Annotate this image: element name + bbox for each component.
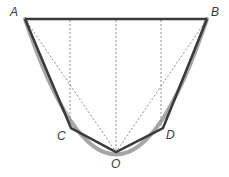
label-b: B — [211, 5, 219, 19]
label-o: O — [111, 157, 120, 171]
parabola-diagram: A B C O D — [0, 0, 229, 177]
diagram-svg: A B C O D — [0, 0, 229, 177]
label-a: A — [9, 5, 18, 19]
dashed-diagonal-ao — [25, 19, 116, 152]
label-c: C — [57, 129, 66, 143]
dashed-diagonal-bo — [116, 19, 207, 152]
label-d: D — [166, 128, 175, 142]
